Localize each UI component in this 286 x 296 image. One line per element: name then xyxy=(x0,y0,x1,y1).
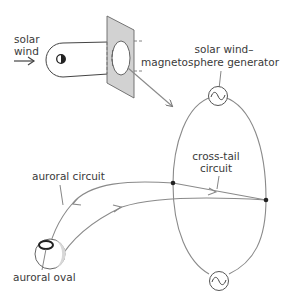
solar-wind-label-line2: wind xyxy=(14,45,39,57)
auroral-oval-label: auroral oval xyxy=(13,271,76,283)
cross-tail-wire xyxy=(173,183,266,200)
solar-wind-arrow-icon xyxy=(14,57,34,65)
generator-label-line2: magnetosphere generator xyxy=(141,56,280,68)
junction-node-right xyxy=(264,198,269,203)
circuit-loop-right xyxy=(224,97,266,274)
cross-section-pointer-arrow xyxy=(128,68,172,106)
top-generator-icon xyxy=(209,87,228,106)
cross-tail-leader-line xyxy=(217,176,219,189)
solar-wind-label-line1: solar xyxy=(14,33,40,45)
generator-label-line1: solar wind– xyxy=(195,43,254,55)
cross-tail-label-line2: circuit xyxy=(200,162,232,174)
cross-tail-current-arrow xyxy=(208,188,216,195)
auroral-circuit-leader-line xyxy=(60,185,63,205)
auroral-circuit-label: auroral circuit xyxy=(32,170,105,182)
magnetosphere-tube xyxy=(46,42,108,77)
bottom-generator-icon xyxy=(210,272,229,291)
junction-node-left xyxy=(171,181,176,186)
magnetosphere-circuit-diagram: solar wind solar wind– magnetosphere gen… xyxy=(0,0,286,296)
earth-icon xyxy=(57,55,66,64)
cross-tail-label-line1: cross-tail xyxy=(192,150,239,162)
earth-globe-icon xyxy=(35,239,66,269)
auroral-circuit-lower-wire xyxy=(58,198,266,262)
circuit-loop-left xyxy=(173,97,212,274)
cross-section-plane xyxy=(107,16,144,98)
